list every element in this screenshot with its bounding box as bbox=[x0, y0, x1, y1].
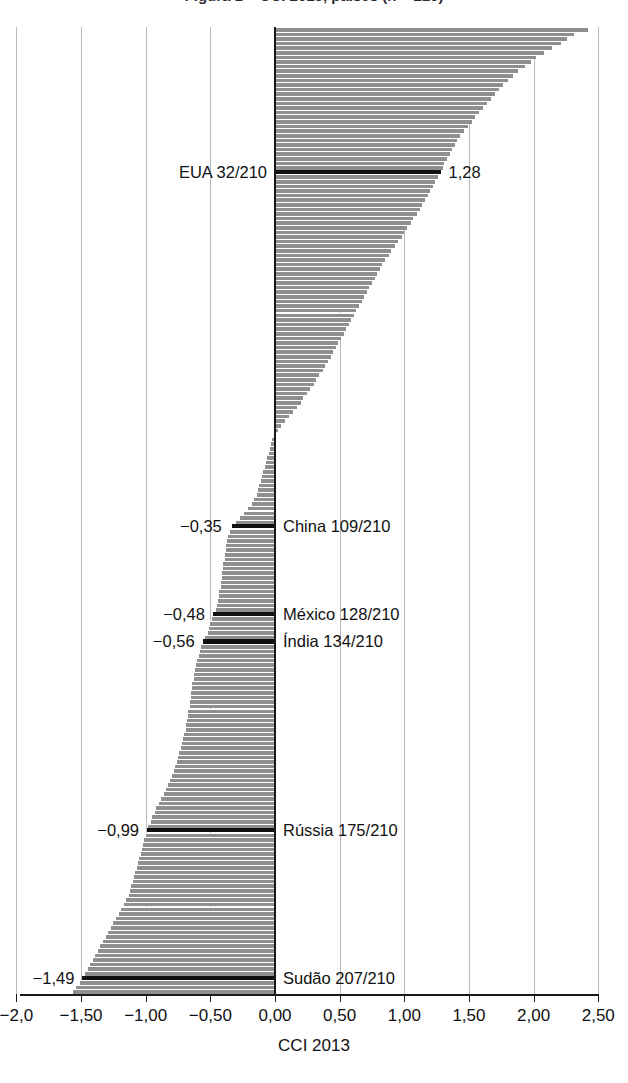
x-tick bbox=[340, 994, 341, 1002]
x-tick bbox=[210, 994, 211, 1002]
bar-highlighted bbox=[232, 524, 275, 528]
x-tick bbox=[146, 994, 147, 1002]
bar-series bbox=[0, 27, 628, 994]
x-tick bbox=[598, 994, 599, 1002]
bar-highlighted bbox=[203, 639, 275, 643]
annotation-value-label: −0,48 bbox=[163, 606, 205, 623]
x-tick-label: 1,00 bbox=[388, 1006, 421, 1026]
chart-figure: Figura 1 – CCI 2013, países (n = 210) EU… bbox=[0, 0, 628, 1083]
zero-axis-line bbox=[274, 27, 276, 994]
bar-highlighted bbox=[147, 828, 275, 832]
annotation-country-label: Sudão 207/210 bbox=[283, 970, 395, 987]
bar bbox=[73, 989, 275, 994]
x-axis-line bbox=[20, 994, 599, 996]
bar-highlighted bbox=[275, 170, 441, 174]
annotation-country-label: Rússia 175/210 bbox=[283, 822, 398, 839]
annotation-country-label: EUA 32/210 bbox=[179, 164, 267, 181]
plot-area bbox=[0, 27, 628, 994]
x-tick-label: 0,00 bbox=[258, 1006, 291, 1026]
x-tick-label: 0,50 bbox=[323, 1006, 356, 1026]
x-tick-label: 1,50 bbox=[452, 1006, 485, 1026]
annotation-country-label: Índia 134/210 bbox=[283, 633, 383, 650]
x-tick bbox=[81, 994, 82, 1002]
annotation-value-label: −0,56 bbox=[153, 633, 195, 650]
x-tick bbox=[275, 994, 276, 1002]
x-axis-label: CCI 2013 bbox=[0, 1036, 628, 1056]
annotation-country-label: México 128/210 bbox=[283, 606, 400, 623]
x-tick-label: −0,50 bbox=[189, 1006, 232, 1026]
x-tick-label: −2,0 bbox=[0, 1006, 33, 1026]
bar-highlighted bbox=[82, 976, 275, 980]
chart-title: Figura 1 – CCI 2013, países (n = 210) bbox=[0, 0, 628, 5]
x-tick-label: 2,50 bbox=[582, 1006, 615, 1026]
x-tick bbox=[534, 994, 535, 1002]
bar-highlighted bbox=[213, 612, 275, 616]
x-tick bbox=[469, 994, 470, 1002]
x-tick-label: −1,00 bbox=[124, 1006, 167, 1026]
annotation-value-label: −0,35 bbox=[180, 518, 222, 535]
annotation-value-label: 1,28 bbox=[449, 164, 481, 181]
x-tick bbox=[404, 994, 405, 1002]
annotation-value-label: −1,49 bbox=[33, 970, 75, 987]
x-tick-label: −1,50 bbox=[60, 1006, 103, 1026]
x-tick-label: 2,00 bbox=[517, 1006, 550, 1026]
annotation-country-label: China 109/210 bbox=[283, 518, 390, 535]
x-tick bbox=[16, 994, 17, 1002]
annotation-value-label: −0,99 bbox=[97, 822, 139, 839]
